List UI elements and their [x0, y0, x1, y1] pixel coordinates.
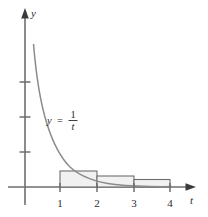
equation-lhs: y	[46, 115, 52, 126]
equation-operator: =	[57, 115, 63, 126]
y-axis-group: y	[21, 7, 36, 205]
riemann-sum-figure: y t 1 2	[0, 0, 208, 217]
x-axis-arrow-icon	[186, 183, 197, 191]
equation-denominator: t	[72, 121, 76, 132]
x-tick-label-3: 3	[131, 197, 137, 209]
x-axis-tick-labels: 1 2 3 4	[57, 197, 173, 209]
curve-equation-label: y = 1 t	[46, 109, 78, 132]
equation-numerator: 1	[70, 109, 75, 120]
hyperbola-curve	[34, 44, 173, 187]
y-axis-label: y	[30, 7, 36, 19]
x-tick-label-4: 4	[167, 197, 173, 209]
x-axis-label: t	[190, 194, 194, 206]
x-tick-label-1: 1	[57, 197, 63, 209]
x-tick-label-2: 2	[94, 197, 100, 209]
y-axis-arrow-icon	[21, 8, 29, 19]
figure-container: y t 1 2	[0, 0, 208, 217]
